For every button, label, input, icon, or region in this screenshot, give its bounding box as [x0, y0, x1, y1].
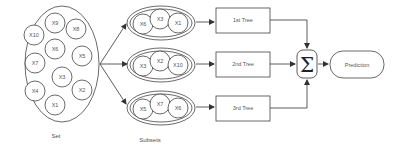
set-group: X9X8X10X6X5X7X3X2X4X1 Set: [24, 6, 99, 139]
set-item: X10: [24, 25, 44, 45]
set-item-label: X7: [32, 60, 39, 66]
set-item-label: X9: [52, 20, 59, 26]
subset-2: X3X2X10: [127, 48, 195, 82]
set-item: X4: [25, 81, 45, 101]
set-item: X8: [66, 19, 86, 39]
set-item: X9: [45, 13, 65, 33]
subset-to-tree-arrows: [196, 22, 214, 107]
subset-item-label: X1: [175, 20, 182, 26]
set-item: X2: [72, 80, 92, 100]
set-item: X3: [52, 67, 72, 87]
set-item-label: X8: [73, 26, 80, 32]
branch-arrows: [100, 24, 127, 104]
set-item: X6: [45, 39, 65, 59]
set-label: Set: [51, 133, 60, 139]
tree-3: 3rd Tree: [216, 96, 270, 121]
subset-item-label: X2: [157, 58, 164, 64]
set-item-label: X6: [52, 46, 59, 52]
subsets-label: Subsets: [139, 137, 161, 143]
sigma-icon: Σ: [300, 53, 314, 77]
subset-1: X6X3X1: [127, 6, 195, 40]
subset-item-label: X6: [175, 105, 182, 111]
tree-1: 1st Tree: [216, 8, 270, 33]
set-item-label: X10: [29, 32, 39, 38]
prediction-node: Prediction: [330, 51, 384, 78]
set-item-label: X5: [79, 53, 86, 59]
set-item-label: X2: [79, 87, 86, 93]
set-item-label: X1: [52, 102, 59, 108]
prediction-label: Prediction: [345, 62, 369, 68]
set-item-label: X3: [59, 74, 66, 80]
subset-item-label: X3: [140, 63, 147, 69]
set-item: X1: [45, 95, 65, 115]
tree-2: 2nd Tree: [216, 52, 270, 77]
tree-label: 2nd Tree: [232, 61, 254, 67]
subset-item-label: X10: [173, 62, 183, 68]
subset-item-label: X3: [157, 16, 164, 22]
subset-item-label: X6: [140, 21, 147, 27]
tree-label: 3rd Tree: [233, 105, 253, 111]
set-item-label: X4: [32, 88, 39, 94]
subset-item-label: X5: [140, 106, 147, 112]
set-item: X7: [25, 53, 45, 73]
subset-3: X5X7X6: [127, 91, 195, 125]
trees-group: 1st Tree2nd Tree3rd Tree: [216, 8, 270, 121]
set-item: X5: [72, 46, 92, 66]
tree-label: 1st Tree: [233, 17, 253, 23]
random-forest-diagram: X9X8X10X6X5X7X3X2X4X1 Set X6X3X1X3X2X10X…: [0, 0, 401, 150]
sum-node: Σ: [297, 50, 317, 78]
subset-item-label: X7: [157, 101, 164, 107]
subsets-group: X6X3X1X3X2X10X5X7X6: [127, 6, 195, 125]
